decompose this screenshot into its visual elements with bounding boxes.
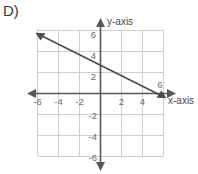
coordinate-plane-screenshot: D) (0, 0, 198, 174)
y-axis-top-arrowhead (96, 18, 105, 27)
x-axis-title: x-axis (168, 95, 194, 106)
y-tick-label-neg4: -4 (89, 131, 97, 142)
x-tick-label-pos2: 2 (119, 96, 124, 107)
y-tick-label-pos2: 2 (91, 71, 96, 82)
x-intercept-label-6: 6 (157, 79, 162, 90)
y-axis-title: y-axis (107, 16, 133, 27)
y-axis-bottom-arrowhead (96, 162, 105, 171)
x-tick-labels: -6 -4 -2 2 4 (33, 96, 145, 107)
x-tick-label-pos4: 4 (140, 96, 145, 107)
x-tick-label-neg4: -4 (54, 96, 62, 107)
y-axis (96, 18, 105, 171)
y-tick-label-neg2: -2 (89, 110, 97, 121)
y-tick-label-pos4: 4 (91, 50, 96, 61)
x-axis (27, 89, 176, 98)
x-tick-label-neg6: -6 (33, 96, 41, 107)
y-tick-label-pos6: 6 (91, 29, 96, 40)
y-tick-labels: 6 4 2 -2 -4 -6 (89, 29, 97, 163)
x-tick-label-neg2: -2 (75, 96, 83, 107)
coordinate-plane-graph: -6 -4 -2 2 4 6 6 4 2 -2 -4 -6 y-axis x-a… (0, 0, 198, 174)
y-tick-label-neg6: -6 (89, 152, 97, 163)
